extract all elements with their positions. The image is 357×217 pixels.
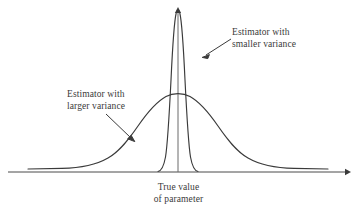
- x-axis-caption: True value of parameter: [0, 182, 357, 205]
- x-axis-arrowhead: [345, 169, 351, 175]
- annotation-smaller-variance: Estimator with smaller variance: [232, 27, 296, 50]
- annotation-smaller-variance-line1: Estimator with: [232, 27, 296, 39]
- annotation-smaller-variance-line2: smaller variance: [232, 39, 296, 51]
- larger-variance-arrow-line: [106, 114, 131, 138]
- estimator-variance-figure: Estimator with smaller variance Estimato…: [0, 0, 357, 217]
- annotation-larger-variance: Estimator with larger variance: [67, 89, 125, 112]
- annotation-larger-variance-line1: Estimator with: [67, 89, 125, 101]
- annotation-larger-variance-line2: larger variance: [67, 101, 125, 113]
- smaller-variance-arrow-line: [206, 39, 231, 55]
- smaller-variance-arrowhead: [202, 55, 209, 59]
- x-axis-caption-line2: of parameter: [0, 194, 357, 206]
- x-axis-caption-line1: True value: [0, 182, 357, 194]
- axes-group: [8, 7, 351, 175]
